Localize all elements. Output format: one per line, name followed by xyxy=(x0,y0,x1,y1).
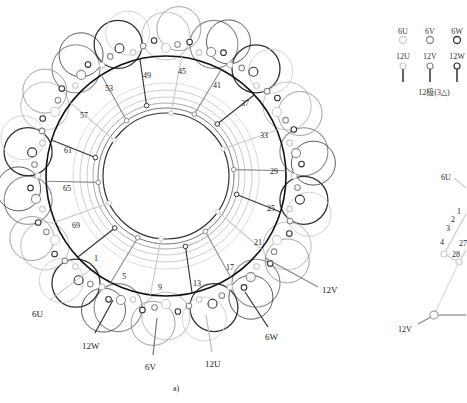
terminal-label: 6U xyxy=(32,310,43,319)
legend-title: 12极(3△) xyxy=(412,89,456,97)
slot-number: 69 xyxy=(72,222,80,230)
slot-number: 45 xyxy=(178,68,186,76)
slot-number: 37 xyxy=(241,100,249,108)
main-winding-diagram xyxy=(0,7,335,355)
side-diagram-label: 12V xyxy=(398,326,412,334)
slot-number: 33 xyxy=(260,132,268,140)
slot-number: 57 xyxy=(80,112,88,120)
slot-number: 13 xyxy=(193,280,201,288)
legend-label-6v: 6V xyxy=(420,28,440,36)
slot-number: 9 xyxy=(158,284,162,292)
slot-number: 41 xyxy=(213,82,221,90)
slot-number: 29 xyxy=(270,168,278,176)
legend-label-12v: 12V xyxy=(420,53,440,61)
slot-number: 21 xyxy=(254,239,262,247)
terminal-label: 6W xyxy=(265,333,278,342)
slot-number: 49 xyxy=(143,72,151,80)
side-diagram-label: 6U xyxy=(441,174,451,182)
legend-label-12u: 12U xyxy=(393,53,413,61)
slot-number: 1 xyxy=(94,255,98,263)
slot-number: 5 xyxy=(122,273,126,281)
legend-label-6u: 6U xyxy=(393,28,413,36)
legend-label-6w: 6W xyxy=(447,28,467,36)
slot-number: 61 xyxy=(64,147,72,155)
slot-number: 65 xyxy=(63,185,71,193)
connection-spokes xyxy=(46,57,286,295)
coil-terminal-circles xyxy=(28,38,305,315)
side-diagram-label: 2 xyxy=(451,216,455,224)
terminal-label: 6V xyxy=(145,363,156,372)
side-diagram-label: 27 xyxy=(459,240,467,248)
side-diagram-label: 3 xyxy=(446,225,450,233)
terminal-label: 12V xyxy=(322,286,338,295)
legend-label-12w: 12W xyxy=(447,53,467,61)
side-diagram-label: 4 xyxy=(440,239,444,247)
coil-arcs xyxy=(0,7,335,346)
slot-number: 53 xyxy=(105,85,113,93)
terminal-label: 12U xyxy=(205,360,221,369)
terminal-label: 12W xyxy=(82,342,100,351)
side-diagram-label: 28 xyxy=(452,251,460,259)
figure-caption: a) xyxy=(173,384,179,393)
slot-number: 17 xyxy=(226,264,234,272)
side-diagram-label: 1 xyxy=(457,208,461,216)
slot-number: 25 xyxy=(267,205,275,213)
